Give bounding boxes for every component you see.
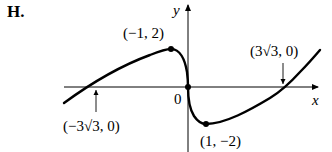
local-min-point	[203, 121, 209, 127]
pos-intercept-label: (3√3, 0)	[250, 43, 298, 60]
local-min-label: (1, −2)	[200, 133, 241, 150]
graph-canvas: y x 0 (−1, 2) (1, −2) (3√3, 0) (−3√3, 0)	[0, 0, 332, 152]
local-max-point	[168, 46, 174, 52]
function-graph-figure: H. y x 0 (−1, 2) (1, −2) (3√3, 0) (−3	[0, 0, 332, 152]
origin-label: 0	[174, 91, 182, 107]
local-max-label: (−1, 2)	[123, 25, 164, 42]
neg-intercept-label: (−3√3, 0)	[63, 118, 120, 135]
origin-point	[185, 84, 191, 90]
y-axis-label: y	[171, 2, 180, 18]
x-axis-label: x	[311, 92, 319, 108]
panel-label: H.	[7, 2, 24, 22]
